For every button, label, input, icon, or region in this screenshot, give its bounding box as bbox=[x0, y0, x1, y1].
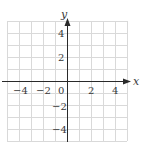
x-tick-labels: −4 −2 0 2 4 bbox=[13, 85, 118, 96]
x-tick-label: 2 bbox=[88, 85, 94, 96]
x-tick-label: −2 bbox=[36, 85, 51, 96]
x-tick-label: 4 bbox=[112, 85, 118, 96]
y-tick-label: −4 bbox=[52, 124, 67, 135]
y-tick-label: −2 bbox=[52, 101, 67, 112]
x-tick-label: 0 bbox=[58, 85, 64, 96]
coordinate-plane: x y −4 −2 0 2 4 4 2 −2 −4 bbox=[0, 0, 151, 149]
y-axis-label: y bbox=[60, 8, 68, 21]
y-tick-label: 4 bbox=[58, 28, 64, 39]
y-tick-label: 2 bbox=[58, 52, 64, 63]
x-tick-label: −4 bbox=[13, 85, 28, 96]
x-axis-label: x bbox=[133, 75, 140, 88]
